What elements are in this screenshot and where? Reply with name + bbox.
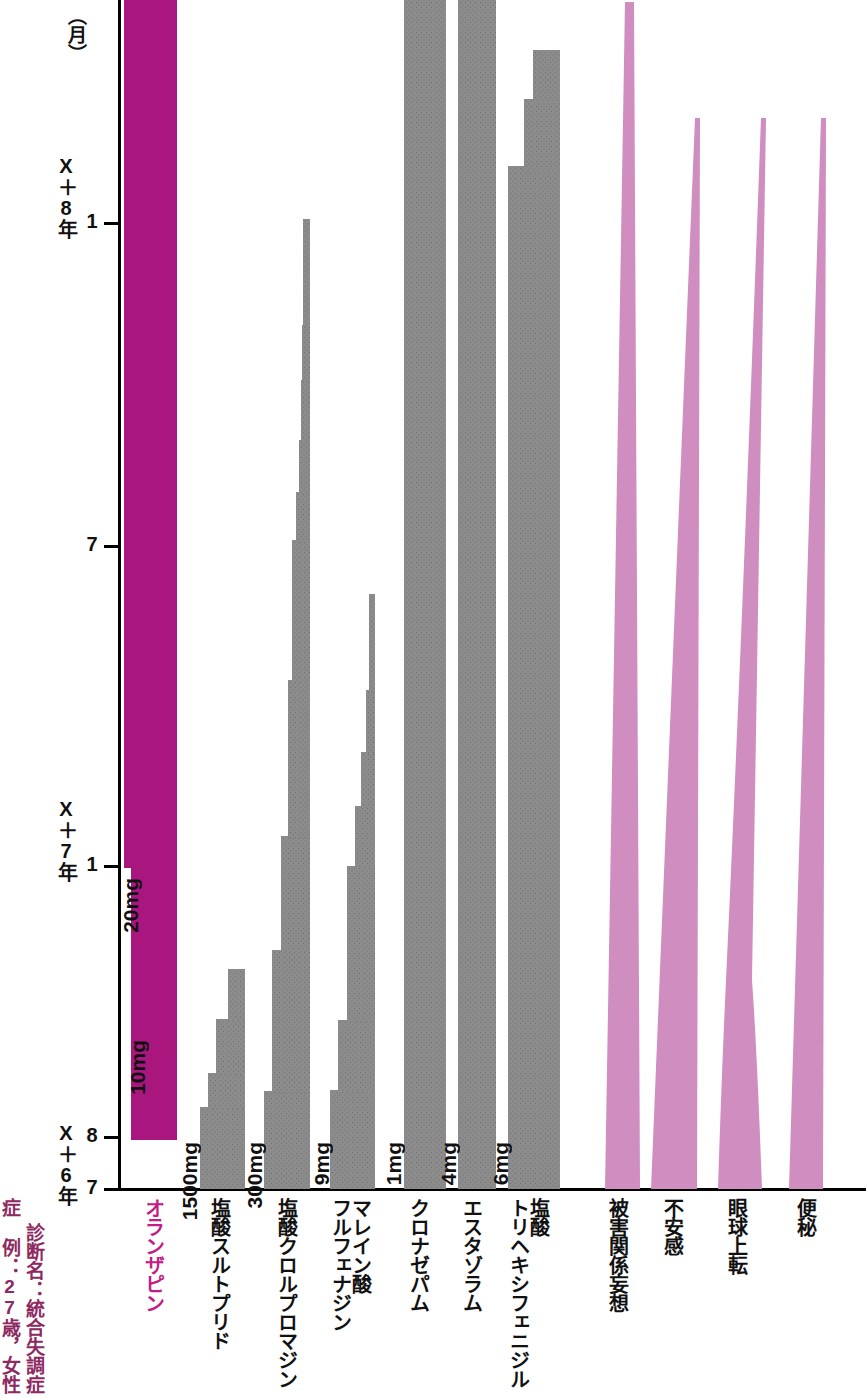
category-label-anxiety: 不安感 bbox=[662, 1198, 682, 1255]
category-label-fluphenazine-line2: フルフェナジン bbox=[330, 1198, 350, 1331]
symptom-bar-delusion bbox=[605, 2, 640, 1189]
category-label-chlorpromazine: 塩酸クロルプロマジン bbox=[276, 1198, 296, 1388]
category-label-fluphenazine: マレイン酸 フルフェナジン bbox=[330, 1198, 371, 1331]
category-label-fluphenazine-line1: マレイン酸 bbox=[350, 1198, 370, 1331]
treatment-timeline-chart: （月） 7 8 1 7 1 X＋6年 X＋7年 X＋8年 10mg 20mg 1… bbox=[0, 0, 866, 1398]
symptom-bar-anxiety bbox=[651, 118, 700, 1189]
category-label-constipation: 便秘 bbox=[795, 1198, 815, 1236]
category-label-oculogyric: 眼球上転 bbox=[726, 1198, 746, 1274]
symptom-bar-oculogyric bbox=[718, 118, 766, 1189]
category-label-trihexyphenidyl: 塩酸 トリヘキシフェニジル bbox=[508, 1198, 549, 1388]
category-label-estazolam: エスタゾラム bbox=[461, 1198, 481, 1312]
symptom-bar-constipation bbox=[789, 118, 826, 1189]
category-label-clonazepam: クロナゼパム bbox=[408, 1198, 428, 1312]
symptom-bars-group bbox=[0, 0, 866, 1192]
category-label-sultopride: 塩酸スルトプリド bbox=[209, 1198, 229, 1350]
category-label-olanzapine: オランザピン bbox=[143, 1198, 163, 1312]
category-label-trihexyphenidyl-line2: トリヘキシフェニジル bbox=[508, 1198, 528, 1388]
category-label-delusion: 被害関係妄想 bbox=[607, 1198, 627, 1312]
category-label-trihexyphenidyl-line1: 塩酸 bbox=[528, 1198, 548, 1388]
